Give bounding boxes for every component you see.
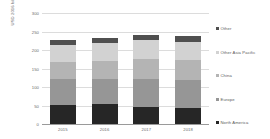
y-axis-tick-label: 150	[32, 66, 39, 71]
bars-layer: 2015201620172018	[42, 13, 209, 125]
legend-swatch-icon	[216, 98, 219, 101]
y-axis-tick-label: 50	[34, 103, 39, 108]
chart-legend: OtherOther Asia PacificChinaEuropeNorth …	[216, 26, 270, 126]
y-axis-tick-label: 300	[32, 11, 39, 16]
legend-item[interactable]: Europe	[216, 97, 235, 102]
legend-label: North America	[221, 120, 249, 125]
bar-segment[interactable]	[50, 105, 76, 124]
y-axis-tick-label: 0	[37, 122, 39, 127]
x-axis-line	[42, 124, 209, 125]
plot-area: 050100150200250300 2015201620172018	[42, 13, 209, 125]
x-axis-tick-label: 2017	[142, 127, 152, 132]
bar-segment[interactable]	[133, 40, 159, 59]
bar-segment[interactable]	[175, 60, 201, 80]
bar-group[interactable]: 2015	[50, 40, 76, 124]
x-axis-tick-label: 2015	[58, 127, 68, 132]
legend-label: China	[221, 73, 232, 78]
legend-swatch-icon	[216, 51, 219, 54]
y-axis-tick-label: 200	[32, 48, 39, 53]
legend-item[interactable]: Other	[216, 26, 231, 31]
y-axis-title: USD 2016 billion	[8, 0, 18, 44]
bar-segment[interactable]	[50, 45, 76, 62]
legend-swatch-icon	[216, 74, 219, 77]
bar-segment[interactable]	[92, 61, 118, 80]
x-axis-tick-label: 2016	[100, 127, 110, 132]
bar-segment[interactable]	[133, 59, 159, 79]
bar-group[interactable]: 2018	[175, 36, 201, 124]
y-axis-tick-label: 250	[32, 29, 39, 34]
legend-swatch-icon	[216, 27, 219, 30]
bar-segment[interactable]	[92, 104, 118, 124]
bar-segment[interactable]	[133, 107, 159, 124]
x-axis-tick-label: 2018	[183, 127, 193, 132]
legend-swatch-icon	[216, 121, 219, 124]
legend-label: Other	[221, 26, 232, 31]
bar-segment[interactable]	[92, 43, 118, 60]
bar-group[interactable]: 2017	[133, 35, 159, 124]
legend-item[interactable]: Other Asia Pacific	[216, 50, 255, 55]
bar-segment[interactable]	[92, 79, 118, 104]
bar-group[interactable]: 2016	[92, 38, 118, 124]
legend-item[interactable]: North America	[216, 120, 248, 125]
bar-segment[interactable]	[175, 42, 201, 61]
bar-segment[interactable]	[175, 80, 201, 108]
legend-label: Europe	[221, 97, 235, 102]
y-axis-tick-label: 100	[32, 85, 39, 90]
legend-label: Other Asia Pacific	[221, 50, 256, 55]
bar-segment[interactable]	[50, 79, 76, 105]
bar-segment[interactable]	[133, 79, 159, 108]
stacked-bar-chart: USD 2016 billion 050100150200250300 2015…	[0, 0, 270, 139]
bar-segment[interactable]	[50, 62, 76, 79]
legend-item[interactable]: China	[216, 73, 232, 78]
bar-segment[interactable]	[175, 108, 201, 124]
